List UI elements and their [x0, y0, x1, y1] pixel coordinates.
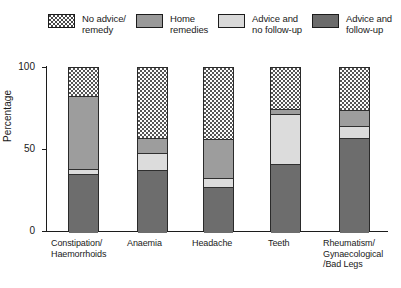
bar-rheumatism-gynaecological-bad-legs[interactable]: [339, 67, 370, 231]
legend-label: Home remedies: [170, 13, 208, 35]
bar-segment-advice-no-follow-up: [138, 153, 167, 170]
bar-segment-advice-no-follow-up: [340, 126, 369, 138]
bar-segment-no-advice-remedy: [204, 68, 233, 139]
legend-item-advice-no-follow-up: Advice and no follow-up: [218, 13, 302, 35]
x-axis-label-rheumatism-gynaecological-bad-legs: Rheumatism/ Gynaecological /Bad Legs: [323, 238, 383, 270]
y-tick-mark-0: 0: [42, 231, 47, 232]
bar-teeth[interactable]: [270, 67, 301, 231]
bar-segment-advice-follow-up: [69, 174, 98, 233]
bar-segment-advice-no-follow-up: [204, 178, 233, 187]
bar-segment-advice-no-follow-up: [271, 114, 300, 164]
bar-segment-home-remedies: [204, 139, 233, 177]
bar-segment-no-advice-remedy: [340, 68, 369, 110]
legend-swatch-light-gray-icon: [218, 14, 245, 28]
bar-segment-advice-follow-up: [204, 187, 233, 233]
x-axis-label-headache: Headache: [192, 238, 232, 249]
y-tick-mark-50: 50: [42, 149, 47, 150]
legend-item-home-remedies: Home remedies: [136, 13, 208, 35]
bar-segment-no-advice-remedy: [138, 68, 167, 138]
bar-anaemia[interactable]: [137, 67, 168, 231]
bar-segment-no-advice-remedy: [271, 68, 300, 109]
bar-segment-advice-follow-up: [138, 170, 167, 233]
bar-segment-advice-follow-up: [271, 164, 300, 233]
legend-label: No advice/ remedy: [82, 13, 126, 35]
chart-plot-area: Percentage 100 50 0: [0, 46, 401, 288]
y-tick-mark-100: 100: [42, 67, 47, 68]
legend-label: Advice and no follow-up: [252, 13, 302, 35]
bar-constipation-haemorrhoids[interactable]: [68, 67, 99, 231]
legend-label: Advice and follow-up: [346, 13, 392, 35]
bar-segment-no-advice-remedy: [69, 68, 98, 96]
y-tick-label: 100: [18, 62, 35, 72]
chart-legend: No advice/ remedy Home remedies Advice a…: [0, 0, 401, 46]
x-axis-label-constipation-haemorrhoids: Constipation/ Haemorrhoids: [51, 238, 106, 259]
legend-swatch-dark-gray-icon: [312, 14, 339, 28]
legend-swatch-medium-gray-icon: [136, 14, 163, 28]
y-tick-label: 50: [24, 144, 35, 154]
bar-segment-home-remedies: [340, 110, 369, 126]
y-tick-label: 0: [29, 226, 35, 236]
x-axis-label-anaemia: Anaemia: [127, 238, 162, 249]
y-axis-title: Percentage: [2, 128, 13, 142]
bar-segment-home-remedies: [138, 138, 167, 154]
legend-item-advice-follow-up: Advice and follow-up: [312, 13, 392, 35]
bar-segment-home-remedies: [69, 96, 98, 170]
bar-headache[interactable]: [203, 67, 234, 231]
x-axis-label-teeth: Teeth: [268, 238, 290, 249]
bar-segment-advice-follow-up: [340, 138, 369, 233]
legend-item-no-advice-remedy: No advice/ remedy: [48, 13, 126, 35]
axis-box: 100 50 0: [46, 66, 388, 232]
legend-swatch-dotted-icon: [48, 14, 75, 28]
